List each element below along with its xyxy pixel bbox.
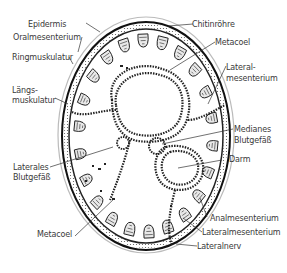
label-analmesenterium: Analmesenterium bbox=[210, 214, 279, 224]
label-laengsmuskulatur-line2: muskulatur bbox=[12, 96, 56, 106]
body-wall bbox=[62, 22, 230, 250]
label-lateralnerv: Lateralnerv bbox=[197, 242, 241, 252]
label-ringmuskulatur: Ringmuskulatur bbox=[12, 53, 73, 63]
label-medianes-blutgefaess-line1: Medianes bbox=[234, 125, 271, 135]
label-lateralmesenterium-bottom: Lateralmesenterium bbox=[202, 228, 280, 238]
label-medianes-blutgefaess-line2: Blutgefäß bbox=[234, 136, 271, 146]
label-lateralmesenterium-top-line2: mesenterium bbox=[226, 74, 278, 84]
label-chitinroehre: Chitinröhre bbox=[192, 20, 235, 30]
label-epidermis: Epidermis bbox=[28, 20, 66, 30]
label-laterales-blutgefaess-line1: Laterales bbox=[13, 163, 49, 173]
worm-cross-section-diagram: Epidermis Oralmesenterium Ringmuskulatur… bbox=[0, 0, 287, 273]
label-lateralmesenterium-top-line1: Lateral- bbox=[226, 63, 256, 73]
label-metacoel-top: Metacoel bbox=[215, 38, 250, 48]
label-metacoel-bottom: Metacoel bbox=[37, 230, 72, 240]
label-darm: Darm bbox=[229, 155, 250, 165]
label-laterales-blutgefaess-line2: Blutgefäß bbox=[13, 173, 50, 183]
label-oralmesenterium: Oralmesenterium bbox=[13, 33, 81, 43]
label-laengsmuskulatur-line1: Längs- bbox=[12, 86, 38, 96]
